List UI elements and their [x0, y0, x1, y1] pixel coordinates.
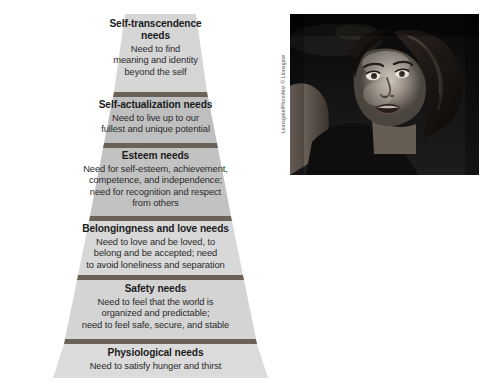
pyramid-tier-shape-5 — [104, 97, 217, 143]
pyramid-divider-3 — [89, 216, 232, 221]
photo-credit: Lionsgate/Photofest © Lionsgate — [280, 7, 286, 133]
pyramid-tier-shape-2 — [65, 280, 256, 339]
pyramid-divider-1 — [64, 339, 257, 344]
pyramid-tier-shape-3 — [78, 221, 243, 275]
pyramid-tier-shape-4 — [90, 148, 231, 216]
pyramid-shape — [0, 0, 311, 392]
pyramid-divider-5 — [113, 92, 208, 97]
photo-block: Lionsgate/Photofest © Lionsgate — [272, 12, 482, 177]
pyramid-divider-4 — [103, 143, 218, 148]
photograph — [290, 14, 479, 175]
pyramid-figure: Self-transcendence needs Need to find me… — [0, 0, 311, 392]
pyramid-divider-2 — [77, 275, 244, 280]
pyramid-tier-shape-1 — [53, 344, 268, 378]
pyramid-tier-shape-6 — [114, 14, 207, 92]
